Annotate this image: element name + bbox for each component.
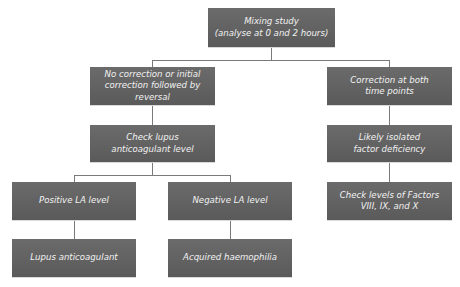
node-negative-la: Negative LA level [168, 182, 292, 220]
connector-isolated-to-check-factors [389, 162, 390, 182]
node-mixing-study-line2: (analyse at 0 and 2 hours) [215, 28, 328, 40]
connector-to-correction-both [389, 60, 390, 67]
node-correction-both: Correction at both time points [327, 67, 452, 105]
node-isolated-factor-deficiency: Likely isolated factor deficiency [327, 125, 452, 162]
node-mixing-study: Mixing study (analyse at 0 and 2 hours) [208, 8, 335, 47]
node-check-factors-label: Check levels of Factors VIII, IX, and X [337, 190, 442, 213]
connector-to-positive-la [74, 175, 75, 182]
node-negative-la-label: Negative LA level [192, 195, 267, 207]
connector-root-down [271, 47, 272, 60]
node-correction-both-label: Correction at both time points [341, 75, 438, 98]
connector-to-negative-la [230, 175, 231, 182]
node-check-lupus-anticoagulant: Check lupus anticoagulant level [90, 125, 215, 162]
flowchart-canvas: Mixing study (analyse at 0 and 2 hours) … [0, 0, 460, 287]
node-lupus-anticoagulant-label: Lupus anticoagulant [30, 252, 117, 264]
connector-check-la-down [152, 162, 153, 175]
connector-correction-to-isolated [389, 105, 390, 125]
node-check-factors: Check levels of Factors VIII, IX, and X [327, 182, 452, 220]
node-acquired-haemophilia: Acquired haemophilia [168, 239, 292, 277]
connector-to-no-correction [152, 60, 153, 67]
node-positive-la: Positive LA level [12, 182, 136, 220]
connector-positive-to-lupus [74, 220, 75, 239]
node-mixing-study-line1: Mixing study [244, 16, 299, 28]
node-positive-la-label: Positive LA level [39, 195, 109, 207]
connector-root-branch [152, 60, 390, 61]
node-no-correction: No correction or initial correction foll… [90, 67, 215, 105]
node-acquired-haemophilia-label: Acquired haemophilia [183, 252, 277, 264]
node-isolated-factor-label: Likely isolated factor deficiency [345, 132, 434, 155]
connector-la-branch [74, 175, 231, 176]
node-no-correction-label: No correction or initial correction foll… [96, 69, 209, 104]
connector-negative-to-haemophilia [230, 220, 231, 239]
connector-no-correction-to-check-la [152, 105, 153, 125]
node-lupus-anticoagulant: Lupus anticoagulant [12, 239, 136, 277]
node-check-la-label: Check lupus anticoagulant level [102, 132, 203, 155]
